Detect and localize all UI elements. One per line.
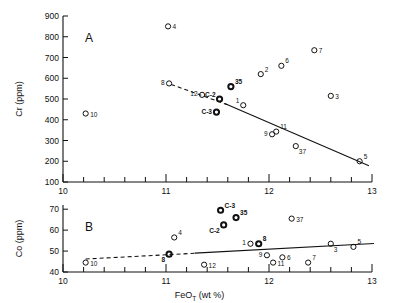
data-point-label: 6 bbox=[287, 254, 291, 261]
data-point bbox=[165, 24, 170, 29]
data-point-label: 3 bbox=[334, 246, 338, 253]
data-point-label: 11 bbox=[278, 260, 285, 267]
data-point-label: 37 bbox=[299, 148, 307, 155]
data-point-label: 5 bbox=[357, 238, 361, 245]
data-point bbox=[264, 253, 269, 258]
data-point bbox=[172, 235, 177, 240]
panel-letter-a: A bbox=[85, 31, 93, 45]
data-point-label: 8 bbox=[263, 235, 267, 242]
x-tick-label: 10 bbox=[58, 186, 68, 196]
y-tick-label: 700 bbox=[45, 53, 59, 63]
y-axis-title-a: Cr (ppm) bbox=[14, 81, 24, 117]
data-point-label: 37 bbox=[296, 216, 304, 223]
data-point-label: 8 bbox=[161, 79, 165, 86]
data-point-label: 12 bbox=[190, 90, 198, 97]
y-tick-label: 100 bbox=[45, 177, 59, 187]
data-point bbox=[214, 109, 219, 114]
data-point bbox=[279, 63, 284, 68]
data-point-label: C-2 bbox=[209, 227, 220, 234]
data-point bbox=[83, 111, 88, 116]
data-point bbox=[248, 241, 253, 246]
y-tick-label: 50 bbox=[50, 246, 60, 256]
trend-line-dashed bbox=[86, 253, 197, 259]
data-point-label: 9 bbox=[259, 251, 263, 258]
x-tick-label: 12 bbox=[264, 186, 274, 196]
data-point-label: C-3 bbox=[225, 202, 236, 209]
data-point bbox=[293, 144, 298, 149]
data-point bbox=[312, 48, 317, 53]
data-point bbox=[258, 72, 263, 77]
data-point-label: 8 bbox=[161, 256, 165, 263]
x-tick-label: 11 bbox=[162, 186, 171, 196]
y-axis-title-b: Co (ppm) bbox=[14, 220, 24, 258]
y-tick-label: 70 bbox=[50, 204, 60, 214]
data-point bbox=[306, 260, 311, 265]
data-point-label: 35 bbox=[235, 78, 243, 85]
x-axis-title: FeOT (wt %) bbox=[175, 290, 225, 302]
data-point bbox=[202, 262, 207, 267]
data-point bbox=[221, 222, 226, 227]
data-point-label: 35 bbox=[240, 209, 248, 216]
x-tick-label: 10 bbox=[58, 276, 68, 286]
y-tick-label: 200 bbox=[45, 156, 59, 166]
data-point bbox=[166, 81, 171, 86]
y-tick-label: 400 bbox=[45, 115, 59, 125]
panel-a: 1002003004005006007008009001011121310481… bbox=[14, 11, 377, 196]
data-point bbox=[233, 215, 238, 220]
data-point bbox=[241, 103, 246, 108]
data-point bbox=[256, 241, 261, 246]
x-tick-label: 11 bbox=[162, 276, 171, 286]
x-axis-title-main: FeO bbox=[175, 290, 193, 300]
data-point-label: 6 bbox=[285, 57, 289, 64]
figure-root: 1002003004005006007008009001011121310481… bbox=[0, 0, 396, 303]
data-point bbox=[271, 260, 276, 265]
data-point bbox=[228, 84, 233, 89]
trend-line-solid bbox=[195, 244, 374, 254]
y-tick-label: 300 bbox=[45, 136, 59, 146]
x-tick-label: 13 bbox=[367, 276, 377, 286]
y-tick-label: 800 bbox=[45, 32, 59, 42]
data-point bbox=[166, 252, 171, 257]
data-point-label: 9 bbox=[264, 130, 268, 137]
data-point bbox=[83, 260, 88, 265]
y-tick-label: 60 bbox=[50, 225, 60, 235]
y-tick-label: 900 bbox=[45, 11, 59, 21]
data-point bbox=[328, 93, 333, 98]
data-point-label: 1 bbox=[236, 97, 240, 104]
data-point-label: 7 bbox=[319, 47, 323, 54]
data-point-label: 10 bbox=[90, 111, 98, 118]
panel-letter-b: B bbox=[85, 220, 93, 234]
data-point-label: 10 bbox=[90, 260, 98, 267]
data-point-label: 7 bbox=[312, 254, 316, 261]
data-point-label: 4 bbox=[178, 229, 182, 236]
data-point bbox=[289, 216, 294, 221]
data-point bbox=[218, 208, 223, 213]
data-point-label: 3 bbox=[335, 93, 339, 100]
data-point-label: 4 bbox=[173, 23, 177, 30]
data-point-label: 2 bbox=[265, 66, 269, 73]
data-point bbox=[274, 129, 279, 134]
x-axis-title-unit: (wt %) bbox=[196, 290, 224, 300]
trend-line-solid bbox=[225, 104, 369, 166]
panel-b: 4050607010111213108412C-3C-2351891137673… bbox=[14, 202, 377, 286]
y-tick-label: 600 bbox=[45, 73, 59, 83]
data-point-label: 11 bbox=[280, 123, 287, 130]
data-point-label: C-2 bbox=[205, 91, 216, 98]
data-point-label: 1 bbox=[242, 239, 246, 246]
scatter-figure: 1002003004005006007008009001011121310481… bbox=[0, 0, 396, 303]
data-point-label: 12 bbox=[209, 262, 217, 269]
y-tick-label: 500 bbox=[45, 94, 59, 104]
x-tick-label: 12 bbox=[264, 276, 274, 286]
data-point bbox=[217, 96, 222, 101]
data-point-label: C-3 bbox=[201, 108, 212, 115]
data-point-label: 5 bbox=[364, 153, 368, 160]
x-tick-label: 13 bbox=[367, 186, 377, 196]
